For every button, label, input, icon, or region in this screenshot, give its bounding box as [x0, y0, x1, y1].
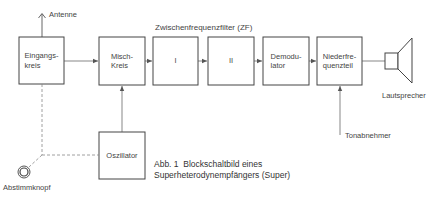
block-label-demodulator: Demodu-lator: [263, 37, 309, 85]
antenna-icon: [39, 14, 46, 38]
label-zf-group: Zwischenfrequenzfilter (ZF): [155, 23, 252, 32]
figure-caption-line2: Superheterodynempfängers (Super): [154, 170, 290, 181]
tuning-linkage-dashed: [29, 84, 99, 167]
label-abstimmknopf: Abstimmknopf: [3, 183, 51, 192]
block-label-zf1: I: [153, 37, 198, 85]
tuning-knob-icon: [18, 166, 30, 178]
block-label-eingangskreis: Eingangs-kreis: [19, 37, 64, 84]
block-label-mischkreis: Misch-Kreis: [99, 37, 145, 85]
figure-caption-line1: Abb. 1 Blockschaltbild eines: [154, 159, 262, 170]
block-label-zf2: II: [208, 37, 254, 85]
block-label-niederfrequenzteil: Niederfre-quenzteil: [317, 37, 362, 85]
block-label-oszillator: Oszillator: [99, 132, 145, 179]
label-tonabnehmer: Tonabnehmer: [345, 131, 391, 140]
label-lautsprecher: Lautsprecher: [382, 91, 426, 100]
label-antenne: Antenne: [49, 10, 77, 19]
loudspeaker-icon: [385, 38, 412, 83]
